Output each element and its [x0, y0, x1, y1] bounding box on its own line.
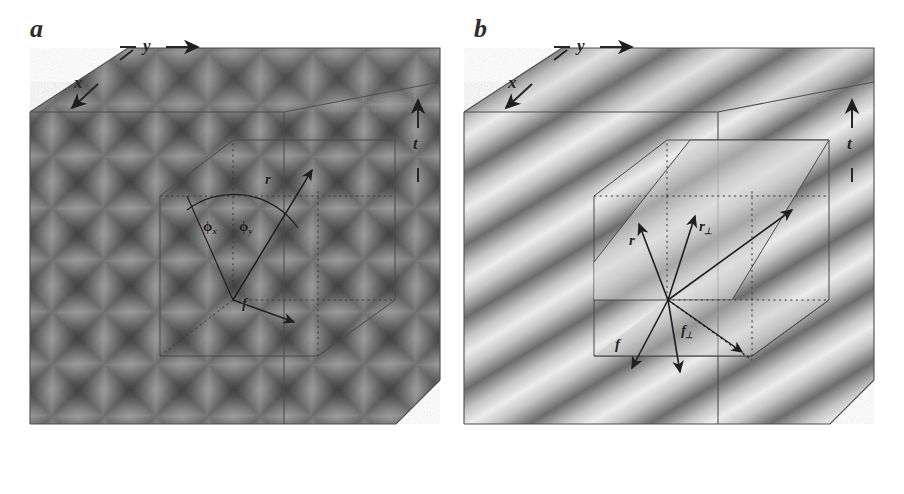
vector-label-f-b: f	[615, 336, 620, 353]
vector-label-r-perp-b: r⊥	[699, 218, 712, 236]
angle-label-phi-x: ϕx	[203, 218, 217, 236]
vector-f-a-text: f	[242, 295, 247, 311]
axis-label-t-a: t	[413, 134, 418, 154]
axis-label-x-b: x	[508, 73, 517, 93]
phi-y-subscript: y	[248, 226, 252, 236]
angle-label-phi-y: ϕy	[239, 218, 252, 236]
panel-b: b	[452, 0, 904, 494]
panel-b-graphic	[452, 0, 904, 494]
phi-x-subscript: x	[212, 226, 217, 236]
phi-y-symbol: ϕ	[239, 218, 248, 234]
axis-label-y-b: y	[577, 36, 585, 56]
vector-label-r-b: r	[629, 232, 635, 249]
panel-a-graphic	[0, 0, 452, 494]
vector-r-b-text: r	[629, 232, 635, 248]
axis-label-t-b: t	[847, 134, 852, 154]
vector-r-perp-b-subscript: ⊥	[704, 226, 712, 236]
phi-x-symbol: ϕ	[203, 218, 212, 234]
vector-f-b-text: f	[615, 336, 620, 352]
vector-label-f-a: f	[242, 295, 247, 312]
panel-a: a	[0, 0, 452, 494]
figure-container: a	[0, 0, 904, 494]
axis-label-y-a: y	[143, 36, 151, 56]
cube-a-front-face	[30, 82, 440, 424]
axis-label-x-a: x	[74, 73, 83, 93]
vector-r-a-text: r	[265, 171, 271, 187]
vector-f-perp-b-subscript: ⊥	[685, 330, 693, 340]
vector-label-r-a: r	[265, 171, 271, 188]
vector-label-f-perp-b: f⊥	[681, 322, 693, 340]
